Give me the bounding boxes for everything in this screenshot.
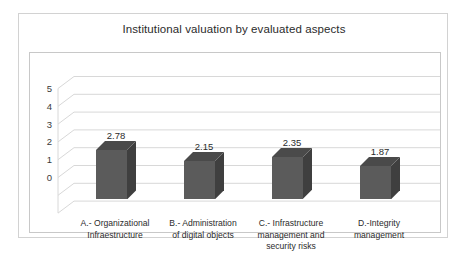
category-label-line: of digital objects (155, 230, 251, 242)
category-label-A: A.- OrganizationalInfraestructure (67, 218, 163, 241)
chart-frame: Institutional valuation by evaluated asp… (18, 13, 448, 238)
category-label-line: C.- Infrastructure (243, 218, 339, 230)
category-label-D: D.-Integritymanagement (331, 218, 427, 241)
bar-B[interactable] (184, 152, 224, 199)
category-label-line: management and (243, 230, 339, 242)
category-label-line: Infraestructure (67, 230, 163, 242)
category-label-line: D.-Integrity (331, 218, 427, 230)
category-label-line: management (331, 230, 427, 242)
category-label-line: B.- Administration (155, 218, 251, 230)
category-label-line: A.- Organizational (67, 218, 163, 230)
bar-value-label-D: 1.87 (354, 147, 406, 157)
plot-area: 5 4 3 2 1 0 2.782.152.351.87 (29, 52, 441, 233)
bar-value-label-B: 2.15 (178, 142, 230, 152)
bar-value-label-C: 2.35 (266, 138, 318, 148)
bar-3d-faces (272, 148, 312, 199)
bar-side-face (127, 141, 136, 199)
bar-3d-faces (360, 157, 400, 199)
category-label-line: security risks (243, 241, 339, 253)
bars-layer: 2.782.152.351.87 (30, 53, 440, 232)
bar-value-label-A: 2.78 (90, 131, 142, 141)
category-label-C: C.- Infrastructuremanagement andsecurity… (243, 218, 339, 253)
category-label-B: B.- Administrationof digital objects (155, 218, 251, 241)
bar-3d-faces (184, 152, 224, 199)
bar-C[interactable] (272, 148, 312, 199)
bar-A[interactable] (96, 141, 136, 199)
chart-title: Institutional valuation by evaluated asp… (19, 23, 449, 35)
bar-3d-faces (96, 141, 136, 199)
bar-D[interactable] (360, 157, 400, 199)
